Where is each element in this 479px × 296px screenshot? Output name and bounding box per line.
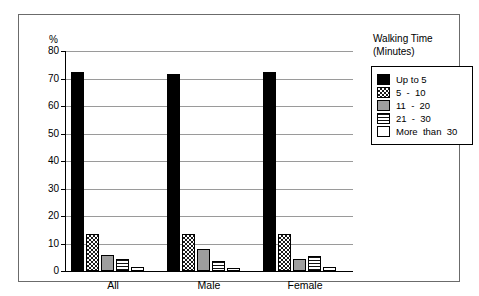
bar-all-5-10: [86, 234, 99, 271]
y-tick-label-30: 30: [48, 184, 59, 194]
bar-all-more-than-30: [131, 267, 144, 271]
y-tick-label-40: 40: [48, 156, 59, 166]
y-tick-label-10: 10: [48, 239, 59, 249]
legend-box: Up to 55 - 1011 - 2021 - 30More than 30: [371, 66, 473, 145]
bar-male-5-10: [182, 234, 195, 271]
y-tick-mark-10: [61, 244, 65, 245]
y-tick-mark-50: [61, 134, 65, 135]
bar-male-up-to-5: [167, 74, 180, 271]
bar-group-all: All: [65, 51, 161, 271]
legend-swatch-white-icon: [377, 126, 390, 137]
y-tick-mark-30: [61, 189, 65, 190]
x-axis-label-all: All: [65, 280, 161, 291]
plot-area: AllMaleFemale 01020304050607080: [65, 51, 353, 271]
legend-item-4: More than 30: [377, 126, 467, 137]
x-axis-label-female: Female: [257, 280, 353, 291]
bar-male-11-20: [197, 249, 210, 271]
legend-swatch-checker-icon: [377, 87, 390, 98]
chart-frame: % AllMaleFemale 01020304050607080 Walkin…: [18, 14, 460, 282]
y-tick-mark-0: [61, 271, 65, 272]
y-tick-label-80: 80: [48, 46, 59, 56]
legend-item-2: 11 - 20: [377, 100, 467, 111]
bar-group-female: Female: [257, 51, 353, 271]
x-axis-label-male: Male: [161, 280, 257, 291]
y-tick-mark-80: [61, 51, 65, 52]
legend-label-3: 21 - 30: [396, 113, 431, 124]
legend-label-0: Up to 5: [396, 74, 427, 85]
gridline-0: [65, 271, 353, 272]
y-tick-label-20: 20: [48, 211, 59, 221]
y-tick-mark-40: [61, 161, 65, 162]
bar-all-21-30: [116, 259, 129, 271]
y-tick-mark-70: [61, 79, 65, 80]
bar-all-up-to-5: [71, 72, 84, 271]
legend-swatch-solid-black-icon: [377, 74, 390, 85]
bar-all-11-20: [101, 255, 114, 272]
bar-female-11-20: [293, 259, 306, 271]
legend-swatch-gray-icon: [377, 100, 390, 111]
y-tick-mark-60: [61, 106, 65, 107]
legend-title-line-2: (Minutes): [373, 46, 473, 59]
legend-label-2: 11 - 20: [396, 100, 430, 111]
chart-legend: Walking Time (Minutes) Up to 55 - 1011 -…: [371, 33, 473, 145]
legend-label-1: 5 - 10: [396, 87, 426, 98]
legend-title-line-1: Walking Time: [373, 33, 473, 46]
legend-item-3: 21 - 30: [377, 113, 467, 124]
legend-label-4: More than 30: [396, 126, 457, 137]
bar-female-5-10: [278, 234, 291, 271]
bar-group-male: Male: [161, 51, 257, 271]
y-tick-mark-20: [61, 216, 65, 217]
y-tick-label-0: 0: [53, 266, 59, 276]
bar-male-21-30: [212, 261, 225, 271]
y-tick-label-60: 60: [48, 101, 59, 111]
legend-swatch-hlines-icon: [377, 113, 390, 124]
y-axis-unit-label: %: [49, 35, 58, 45]
y-tick-label-70: 70: [48, 74, 59, 84]
legend-title: Walking Time (Minutes): [371, 33, 473, 58]
legend-item-1: 5 - 10: [377, 87, 467, 98]
bar-male-more-than-30: [227, 268, 240, 271]
y-tick-label-50: 50: [48, 129, 59, 139]
bar-female-more-than-30: [323, 267, 336, 271]
legend-item-0: Up to 5: [377, 74, 467, 85]
bar-female-21-30: [308, 256, 321, 271]
bars-layer: AllMaleFemale: [65, 51, 353, 271]
bar-female-up-to-5: [263, 72, 276, 271]
